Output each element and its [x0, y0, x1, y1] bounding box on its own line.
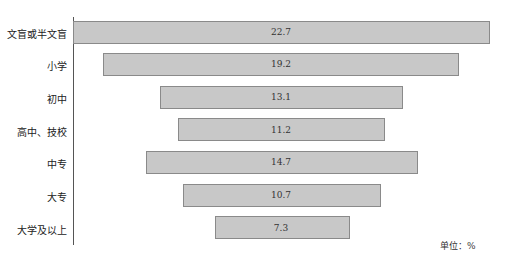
unit-label: 单位：%: [440, 239, 476, 252]
category-label: 小学: [47, 58, 67, 73]
category-label: 大学及以上: [17, 222, 67, 237]
bar-value-label: 13.1: [251, 92, 311, 102]
y-axis-line: [73, 17, 74, 245]
bar-value-label: 14.7: [251, 157, 311, 167]
bar-value-label: 11.2: [251, 125, 311, 135]
bar-value-label: 22.7: [251, 27, 311, 37]
category-label: 文盲或半文盲: [7, 26, 67, 41]
category-label: 初中: [47, 91, 67, 106]
bar-value-label: 19.2: [251, 59, 311, 69]
category-label: 中专: [47, 156, 67, 171]
category-label: 高中、技校: [17, 124, 67, 139]
category-label: 大专: [47, 189, 67, 204]
bar-value-label: 7.3: [251, 223, 311, 233]
bar-value-label: 10.7: [251, 190, 311, 200]
